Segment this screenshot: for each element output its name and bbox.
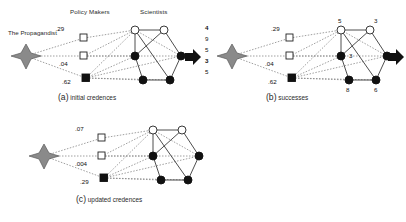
right-arrow-icon-b-to-c <box>388 48 404 66</box>
success-count-bottom-left: 8 <box>346 86 349 93</box>
policy-maker-node-open-2 <box>80 52 87 59</box>
credence-label-a-3: .62 <box>62 78 71 85</box>
scientist-node-filled-bottom-right <box>166 76 174 84</box>
scientist-node-open-top-left <box>131 26 139 34</box>
policy-maker-node-filled-1 <box>100 174 108 182</box>
propagandist-label: The Propagandist <box>8 29 57 36</box>
panel-initial-credences: Policy Makers Scientists The Propagandis… <box>0 0 196 111</box>
scientist-node-filled-bottom-left <box>139 76 147 84</box>
policy-maker-nodes-c <box>98 134 108 182</box>
scientist-node-open-top-right <box>178 126 186 134</box>
scientist-node-filled-bottom-right <box>184 176 192 184</box>
policy-maker-node-filled-1 <box>288 74 296 82</box>
column-header-policy-makers: Policy Makers <box>70 8 110 15</box>
credence-label-c-3: .29 <box>80 178 89 185</box>
panel-caption-letter-b: (b) <box>266 92 277 102</box>
network-graph-a <box>0 0 196 100</box>
scientist-node-open-top-left <box>149 126 157 134</box>
scientist-nodes-c <box>149 126 203 184</box>
credence-label-b-3: .62 <box>268 78 277 85</box>
success-count-top-right: 3 <box>374 17 377 24</box>
policy-maker-node-open-1 <box>80 34 87 41</box>
propagandist-star-b <box>217 44 247 69</box>
scientist-nodes-b <box>337 26 391 84</box>
policy-maker-node-open-1 <box>98 134 105 141</box>
scientist-node-filled-mid-left <box>337 52 345 60</box>
panel-updated-credences: .07 .004 .29 (c) updated credences <box>18 110 218 222</box>
scientist-node-filled-mid-right <box>177 52 185 60</box>
panel-caption-a: (a) initial credences <box>58 92 116 102</box>
policy-maker-nodes-b <box>286 34 296 82</box>
dotted-influence-edges-c <box>44 130 199 180</box>
dotted-influence-edges-b <box>232 30 387 80</box>
panel-caption-c: (c) updated credences <box>76 194 142 204</box>
credence-label-a-1: .29 <box>55 25 64 32</box>
credence-label-c-2: .004 <box>75 160 87 167</box>
trial-count-b-1: 4 <box>205 24 208 31</box>
trial-count-b-3: 5 <box>205 46 208 53</box>
panel-caption-text-b: successes <box>278 94 308 101</box>
trial-count-b-2: 9 <box>205 35 208 42</box>
policy-maker-node-open-2 <box>286 52 293 59</box>
hexagon-edges-b <box>341 30 387 80</box>
panel-caption-b: (b) successes <box>266 92 308 102</box>
right-arrow-icon-a-to-b <box>185 48 201 66</box>
hexagon-edges-c <box>153 130 199 180</box>
dotted-influence-edges-a <box>26 30 181 80</box>
policy-maker-node-filled-1 <box>82 74 90 82</box>
scientist-node-open-top-right <box>160 26 168 34</box>
success-count-top-left: 5 <box>338 17 341 24</box>
scientist-node-open-top-left <box>337 26 345 34</box>
panel-caption-letter-c: (c) <box>76 194 86 204</box>
figure-container: Policy Makers Scientists The Propagandis… <box>0 0 406 222</box>
column-header-scientists: Scientists <box>140 8 167 15</box>
scientist-node-filled-mid-left <box>149 152 157 160</box>
scientist-nodes-a <box>131 26 185 84</box>
panel-caption-letter-a: (a) <box>58 92 69 102</box>
scientist-node-filled-mid-right <box>195 152 203 160</box>
credence-label-b-1: .29 <box>271 25 280 32</box>
scientist-node-open-top-right <box>366 26 374 34</box>
scientist-node-filled-bottom-left <box>157 176 165 184</box>
trial-count-b-5: 5 <box>205 68 208 75</box>
policy-maker-node-open-2 <box>98 152 105 159</box>
panel-caption-text-c: updated credences <box>88 196 142 203</box>
policy-maker-nodes-a <box>80 34 90 82</box>
hexagon-edges-a <box>135 30 181 80</box>
scientist-node-filled-bottom-right <box>372 76 380 84</box>
credence-label-a-2: .04 <box>59 60 68 67</box>
credence-label-b-2: .04 <box>265 60 274 67</box>
propagandist-star-a <box>11 44 41 69</box>
scientist-node-filled-bottom-left <box>345 76 353 84</box>
trial-count-b-4: 3 <box>205 57 208 64</box>
credence-label-c-1: .07 <box>75 125 84 132</box>
propagandist-star-c <box>29 144 59 169</box>
scientist-node-filled-mid-left <box>131 52 139 60</box>
network-graph-b <box>200 0 406 100</box>
panel-caption-text-a: initial credences <box>70 94 116 101</box>
panel-successes: 4 9 5 3 5 .29 .04 .62 5 3 3 7 8 6 (b) su… <box>200 0 406 111</box>
success-count-mid-left: 3 <box>349 52 352 59</box>
success-count-bottom-right: 6 <box>374 86 377 93</box>
policy-maker-node-open-1 <box>286 34 293 41</box>
